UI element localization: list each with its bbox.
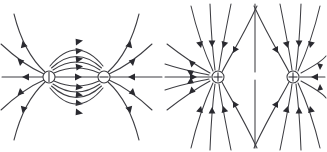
- like-right-line-s2: [296, 84, 303, 150]
- dipole-svg: [0, 0, 164, 152]
- like-right-line-s1: [298, 83, 320, 148]
- like-right-line-n3: [280, 4, 292, 70]
- dipole-outer-line-ll-1: [14, 82, 45, 140]
- like-axis-left: [165, 74, 211, 81]
- dipole-outer-line-ur-2: [109, 44, 152, 74]
- like-axis-right: [300, 74, 325, 81]
- negative-charge: [98, 71, 110, 83]
- like-left-line-s1: [191, 83, 213, 148]
- dipole-outer-line-ll-2: [1, 80, 44, 110]
- like-right-charge: [287, 71, 299, 83]
- axis-line-right: [110, 74, 162, 81]
- like-right-line-n2: [296, 4, 303, 70]
- like-right-line-s3: [280, 84, 292, 150]
- positive-charge: [43, 71, 55, 83]
- panel-like-charges: [163, 0, 327, 152]
- like-right-line-n1: [298, 6, 320, 71]
- dipole-outer-line-ul-1: [14, 14, 45, 72]
- like-left-line-n6: [165, 64, 209, 77]
- like-charges-svg: [163, 0, 327, 152]
- like-left-charge: [212, 71, 224, 83]
- like-left-line-s6: [165, 77, 209, 90]
- like-left-line-s2: [209, 84, 216, 150]
- dipole-center-line: [55, 74, 98, 81]
- like-left-line-n2: [209, 4, 216, 70]
- like-right-line-s5: [301, 81, 326, 98]
- like-left-line-s4: [222, 82, 257, 148]
- like-right-line-n5: [301, 56, 326, 73]
- like-left-line-n1: [191, 6, 213, 71]
- dipole-outer-line-lr-2: [109, 80, 152, 110]
- like-left-line-s3: [219, 84, 231, 150]
- like-left-line-n4: [222, 6, 257, 72]
- axis-line-left: [2, 74, 43, 81]
- dipole-outer-line-lr-1: [108, 82, 139, 140]
- like-right-line-n4: [254, 6, 289, 72]
- dipole-outer-line-ur-1: [108, 14, 139, 72]
- field-line-figure: [0, 0, 327, 152]
- like-right-line-s4: [254, 82, 289, 148]
- dipole-outer-line-ul-2: [1, 44, 44, 74]
- panel-dipole: [0, 0, 164, 152]
- like-left-line-n3: [219, 4, 231, 70]
